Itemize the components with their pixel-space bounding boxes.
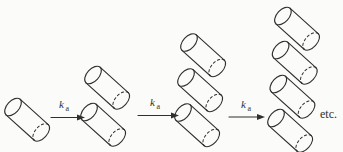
- aggregate-stage-1: [2, 95, 53, 144]
- cylinder-shape: [2, 95, 53, 144]
- aggregate-stage-4: [265, 4, 323, 152]
- rate-constant-label: k: [241, 98, 247, 110]
- rate-constant-subscript: a: [248, 104, 252, 113]
- reaction-arrow-2: k a: [138, 96, 179, 119]
- aggregate-stage-3: [172, 31, 229, 150]
- cylinder-shape: [267, 72, 318, 121]
- reaction-arrow-1: k a: [51, 98, 85, 121]
- stages-layer: [2, 4, 323, 152]
- rate-constant-subscript: a: [66, 104, 70, 113]
- cylinder-shape: [175, 66, 226, 115]
- etc-label: etc.: [320, 107, 337, 121]
- cylinder-shape: [271, 4, 322, 53]
- reaction-arrow-3: k a: [229, 98, 265, 120]
- rate-constant-label: k: [150, 96, 156, 108]
- aggregate-stage-2: [78, 63, 133, 149]
- aggregation-diagram: k a k a k a etc.: [0, 0, 343, 152]
- rate-constant-label: k: [59, 98, 65, 110]
- diagram-canvas: k a k a k a etc.: [0, 0, 343, 152]
- cylinder-shape: [172, 101, 223, 150]
- rate-constant-subscript: a: [157, 102, 161, 111]
- cylinder-shape: [178, 31, 229, 80]
- cylinder-shape: [265, 106, 316, 152]
- cylinder-shape: [269, 38, 320, 87]
- arrowhead-icon: [257, 114, 265, 120]
